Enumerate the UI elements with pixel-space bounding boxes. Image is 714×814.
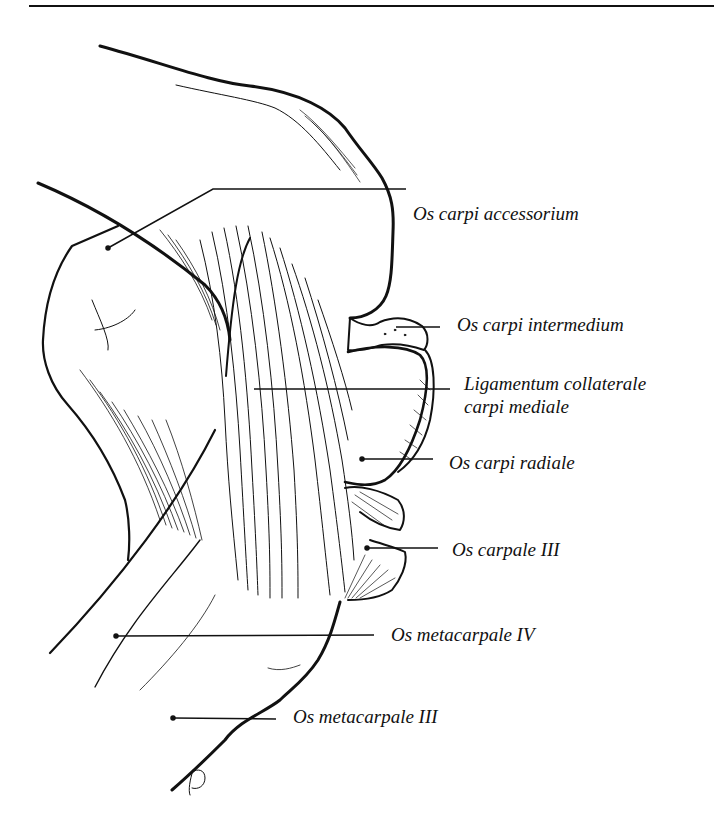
leader-lines: [0, 0, 714, 814]
label-ligamentum-collaterale: Ligamentum collaterale: [464, 373, 646, 395]
label-ligamentum-collaterale-line2: carpi mediale: [464, 396, 569, 418]
label-os-metacarpale-iii: Os metacarpale III: [293, 706, 438, 728]
leader-os-metacarpale-iv: [116, 635, 374, 636]
label-os-carpi-intermedium: Os carpi intermedium: [457, 314, 624, 336]
label-os-carpi-accessorium: Os carpi accessorium: [413, 203, 579, 225]
label-os-carpi-radiale: Os carpi radiale: [449, 452, 575, 474]
label-os-carpale-iii: Os carpale III: [452, 539, 560, 561]
leader-os-metacarpale-iii: [173, 718, 276, 719]
label-os-metacarpale-iv: Os metacarpale IV: [391, 624, 535, 646]
leader-os-carpi-accessorium: [108, 189, 406, 248]
